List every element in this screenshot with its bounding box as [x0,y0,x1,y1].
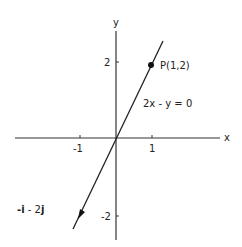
point-p [148,62,154,68]
x-tick-label-neg1: -1 [73,143,83,154]
equation-label: 2x - y = 0 [143,98,192,109]
x-tick-label-1: 1 [149,143,155,154]
coordinate-diagram: x y -1 1 2 -2 2x - y = 0 P(1,2) -i - 2j [0,0,242,247]
vector-label-j: j [40,204,44,215]
y-tick-label-neg2: -2 [101,211,111,222]
vector-label: -i - 2j [17,204,44,215]
y-axis-label: y [113,17,119,28]
x-axis-label: x [224,132,230,143]
line-2x-minus-y [73,41,163,229]
y-tick-label-2: 2 [104,57,110,68]
point-p-label: P(1,2) [160,60,190,71]
arrowhead-icon [78,209,85,219]
vector-label-minus2: - 2 [25,204,41,215]
